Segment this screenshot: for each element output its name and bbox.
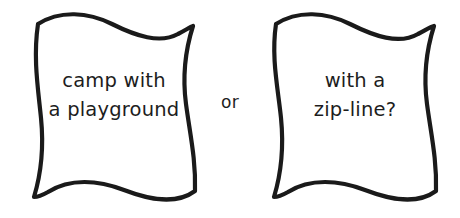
or-connector-label: or xyxy=(205,91,255,113)
right-option-line-2: zip-line? xyxy=(276,95,434,124)
right-option-line-1: with a xyxy=(276,66,434,95)
left-option-line-1: camp with xyxy=(34,66,194,95)
choice-illustration: camp with a playground or with a zip-lin… xyxy=(0,0,460,218)
left-option-line-2: a playground xyxy=(34,95,194,124)
right-option-text: with a zip-line? xyxy=(276,66,434,124)
left-option-text: camp with a playground xyxy=(34,66,194,124)
